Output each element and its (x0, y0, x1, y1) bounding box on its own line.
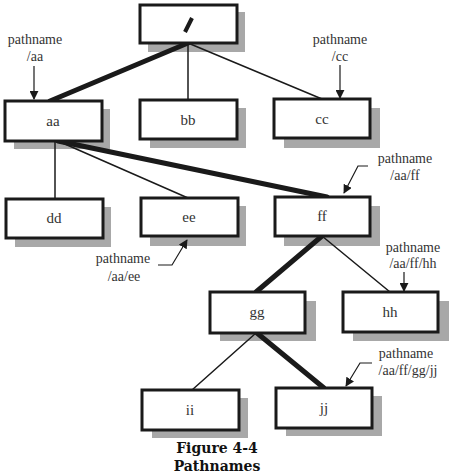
annotation-ff-path: /aa/ff (390, 168, 420, 183)
annotation-hh-path: /aa/ff/hh (389, 256, 436, 271)
edge-gg-jj (257, 333, 324, 388)
node-label-jj: jj (319, 400, 328, 416)
node-label-ii: ii (186, 402, 194, 418)
annotation-ff: pathname /aa/ff (344, 151, 432, 193)
node-label-ee: ee (182, 209, 196, 225)
edge-aa-ee (58, 141, 188, 198)
arrow-icon (344, 166, 368, 193)
figure-title: Figure 4-4 (0, 440, 442, 456)
annotation-ee-label: pathname (96, 251, 150, 266)
node-label-cc: cc (315, 111, 329, 127)
annotation-jj-label: pathname (379, 346, 433, 361)
annotation-ee-path: /aa/ee (108, 269, 141, 284)
annotation-hh: pathname /aa/ff/hh (386, 240, 440, 291)
annotation-hh-label: pathname (386, 240, 440, 255)
edge-root-cc (188, 43, 322, 99)
edge-root-aa (50, 43, 188, 101)
annotation-cc-path: /cc (332, 49, 348, 64)
figure-subtitle: Pathnames (0, 458, 442, 474)
annotation-cc-label: pathname (313, 32, 367, 47)
node-label-bb: bb (181, 112, 196, 128)
edge-aa-ff (58, 141, 327, 197)
node-label-aa: aa (46, 113, 60, 129)
annotation-aa-label: pathname (8, 32, 62, 47)
annotation-ff-label: pathname (378, 151, 432, 166)
node-label-ff: ff (317, 208, 327, 224)
arrow-icon (346, 363, 372, 386)
node-label-dd: dd (47, 210, 63, 226)
annotation-jj-path: /aa/ff/gg/jj (379, 363, 438, 378)
node-label-gg: gg (250, 304, 266, 320)
annotation-cc: pathname /cc (313, 32, 367, 98)
annotation-aa-path: /aa (27, 49, 44, 64)
pathname-tree-diagram: aa bb cc dd ee ff gg hh ii jj pathname /… (0, 0, 450, 440)
edge-gg-ii (192, 333, 256, 390)
node-label-hh: hh (383, 304, 399, 320)
annotation-aa: pathname /aa (8, 32, 62, 99)
node-root (140, 5, 237, 43)
annotation-jj: pathname /aa/ff/gg/jj (346, 346, 437, 386)
